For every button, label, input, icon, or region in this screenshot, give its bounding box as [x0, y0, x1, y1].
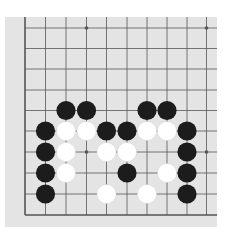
board-intersection[interactable]	[78, 19, 96, 37]
black-stone[interactable]	[177, 184, 196, 203]
board-intersection[interactable]	[138, 81, 156, 99]
board-intersection[interactable]	[78, 40, 96, 58]
board-intersection[interactable]	[178, 40, 196, 58]
white-stone[interactable]	[97, 142, 116, 161]
board-intersection[interactable]	[16, 81, 34, 99]
board-intersection[interactable]	[16, 122, 34, 140]
white-stone[interactable]	[56, 163, 75, 182]
board-intersection[interactable]	[78, 143, 96, 161]
go-board[interactable]	[5, 17, 217, 227]
board-intersection[interactable]	[16, 40, 34, 58]
black-stone[interactable]	[157, 101, 176, 120]
board-intersection[interactable]	[16, 60, 34, 78]
black-stone[interactable]	[117, 163, 136, 182]
white-stone[interactable]	[117, 142, 136, 161]
board-intersection[interactable]	[158, 81, 176, 99]
black-stone[interactable]	[137, 101, 156, 120]
board-intersection[interactable]	[16, 19, 34, 37]
board-intersection[interactable]	[37, 19, 55, 37]
white-stone[interactable]	[137, 184, 156, 203]
black-stone[interactable]	[36, 184, 55, 203]
board-intersection[interactable]	[57, 81, 75, 99]
white-stone[interactable]	[56, 142, 75, 161]
board-intersection[interactable]	[138, 164, 156, 182]
board-intersection[interactable]	[138, 143, 156, 161]
board-intersection[interactable]	[16, 143, 34, 161]
board-intersection[interactable]	[98, 102, 116, 120]
black-stone[interactable]	[56, 101, 75, 120]
board-intersection[interactable]	[198, 40, 216, 58]
board-intersection[interactable]	[118, 185, 136, 203]
board-intersection[interactable]	[138, 19, 156, 37]
white-stone[interactable]	[137, 121, 156, 140]
board-intersection[interactable]	[178, 19, 196, 37]
black-stone[interactable]	[177, 121, 196, 140]
board-intersection[interactable]	[158, 60, 176, 78]
board-intersection[interactable]	[118, 60, 136, 78]
board-intersection[interactable]	[178, 81, 196, 99]
black-stone[interactable]	[36, 142, 55, 161]
board-intersection[interactable]	[37, 102, 55, 120]
board-intersection[interactable]	[198, 164, 216, 182]
board-intersection[interactable]	[57, 185, 75, 203]
board-intersection[interactable]	[98, 81, 116, 99]
board-intersection[interactable]	[158, 19, 176, 37]
black-stone[interactable]	[36, 163, 55, 182]
white-stone[interactable]	[56, 121, 75, 140]
board-intersection[interactable]	[118, 81, 136, 99]
board-intersection[interactable]	[178, 102, 196, 120]
board-intersection[interactable]	[138, 40, 156, 58]
board-intersection[interactable]	[198, 185, 216, 203]
board-intersection[interactable]	[118, 40, 136, 58]
board-intersection[interactable]	[118, 102, 136, 120]
board-intersection[interactable]	[198, 81, 216, 99]
board-intersection[interactable]	[57, 60, 75, 78]
board-intersection[interactable]	[37, 60, 55, 78]
board-intersection[interactable]	[118, 19, 136, 37]
board-intersection[interactable]	[158, 40, 176, 58]
board-intersection[interactable]	[16, 102, 34, 120]
board-intersection[interactable]	[57, 19, 75, 37]
white-stone[interactable]	[157, 121, 176, 140]
board-intersection[interactable]	[198, 102, 216, 120]
board-intersection[interactable]	[78, 164, 96, 182]
black-stone[interactable]	[36, 121, 55, 140]
black-stone[interactable]	[177, 163, 196, 182]
board-intersection[interactable]	[37, 40, 55, 58]
board-intersection[interactable]	[16, 164, 34, 182]
board-intersection[interactable]	[198, 60, 216, 78]
white-stone[interactable]	[77, 121, 96, 140]
board-intersection[interactable]	[78, 185, 96, 203]
black-stone[interactable]	[177, 142, 196, 161]
board-intersection[interactable]	[198, 143, 216, 161]
board-intersection[interactable]	[98, 164, 116, 182]
board-intersection[interactable]	[98, 60, 116, 78]
white-stone[interactable]	[157, 163, 176, 182]
board-intersection[interactable]	[98, 40, 116, 58]
board-intersection[interactable]	[37, 81, 55, 99]
board-intersection[interactable]	[138, 60, 156, 78]
board-intersection[interactable]	[16, 185, 34, 203]
board-intersection[interactable]	[78, 81, 96, 99]
board-intersection[interactable]	[57, 40, 75, 58]
board-intersection[interactable]	[78, 60, 96, 78]
board-intersection[interactable]	[198, 19, 216, 37]
board-intersection[interactable]	[98, 19, 116, 37]
go-board-grid[interactable]	[0, 0, 230, 242]
board-intersection[interactable]	[158, 143, 176, 161]
white-stone[interactable]	[97, 184, 116, 203]
board-intersection[interactable]	[158, 185, 176, 203]
black-stone[interactable]	[117, 121, 136, 140]
black-stone[interactable]	[97, 121, 116, 140]
board-intersection[interactable]	[178, 60, 196, 78]
black-stone[interactable]	[77, 101, 96, 120]
board-intersection[interactable]	[198, 122, 216, 140]
